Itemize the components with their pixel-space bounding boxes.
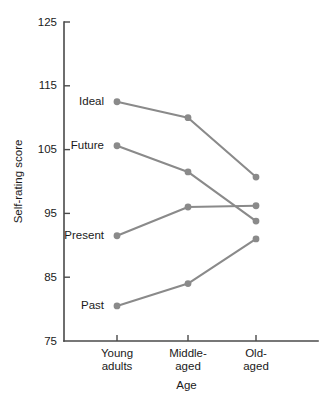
series-labels: IdealFuturePresentPast bbox=[64, 95, 104, 311]
data-point bbox=[185, 204, 192, 211]
data-point bbox=[253, 202, 260, 209]
x-axis: YoungadultsMiddle-agedOld-aged bbox=[64, 335, 318, 372]
series-layer bbox=[114, 98, 260, 309]
data-point bbox=[185, 169, 192, 176]
x-tick-label: Young bbox=[101, 347, 133, 359]
x-tick-label: adults bbox=[102, 360, 133, 372]
series-label-ideal: Ideal bbox=[79, 95, 104, 107]
y-tick-label: 125 bbox=[38, 16, 57, 28]
y-axis: 758595105115125 bbox=[38, 16, 70, 347]
data-point bbox=[253, 218, 260, 225]
y-tick-label: 95 bbox=[44, 207, 57, 219]
data-point bbox=[114, 303, 121, 310]
y-tick-label: 75 bbox=[44, 335, 57, 347]
line-chart: 758595105115125 YoungadultsMiddle-agedOl… bbox=[0, 0, 332, 394]
x-tick-label: aged bbox=[175, 360, 201, 372]
y-tick-label: 105 bbox=[38, 143, 57, 155]
series-label-past: Past bbox=[81, 299, 105, 311]
series-label-future: Future bbox=[71, 139, 104, 151]
y-axis-title: Self-rating score bbox=[12, 140, 24, 224]
data-point bbox=[114, 98, 121, 105]
data-point bbox=[114, 142, 121, 149]
y-tick-label: 115 bbox=[39, 79, 57, 91]
data-point bbox=[185, 114, 192, 121]
series-line-ideal bbox=[117, 102, 256, 177]
data-point bbox=[253, 174, 260, 181]
data-point bbox=[185, 280, 192, 287]
x-tick-label: aged bbox=[243, 360, 269, 372]
x-tick-label: Old- bbox=[245, 347, 267, 359]
data-point bbox=[114, 232, 121, 239]
data-point bbox=[253, 236, 260, 243]
series-line-present bbox=[117, 206, 256, 236]
series-line-past bbox=[117, 239, 256, 306]
series-label-present: Present bbox=[64, 229, 104, 241]
y-tick-label: 85 bbox=[44, 271, 57, 283]
x-tick-label: Middle- bbox=[169, 347, 207, 359]
x-axis-title: Age bbox=[176, 379, 196, 391]
chart-svg: 758595105115125 YoungadultsMiddle-agedOl… bbox=[0, 0, 332, 394]
